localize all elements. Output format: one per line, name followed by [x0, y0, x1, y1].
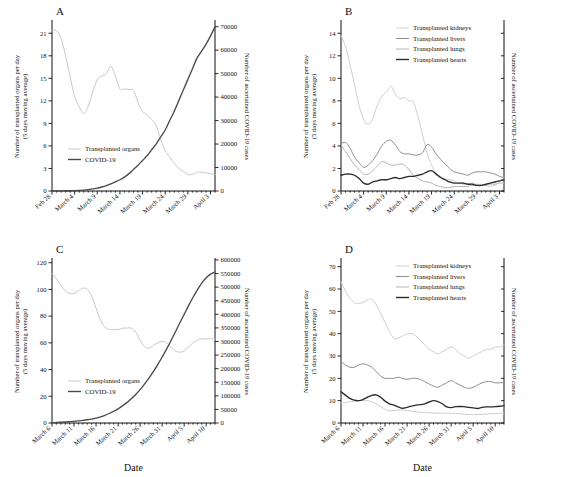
- series-line-covid-19: [52, 272, 215, 423]
- y-tick-label: 120: [37, 259, 48, 266]
- y-tick-label: 80: [40, 312, 47, 319]
- y-axis-title-left: Number of transplanted organs per day: [302, 289, 309, 393]
- y-axis-title-left-sub: (5 days moving average): [21, 309, 29, 374]
- y-tick-label: 20: [40, 393, 47, 400]
- panel-letter: A: [56, 5, 64, 17]
- legend-label: Transplanted hearts: [413, 294, 467, 301]
- y2-tick-label: 60000: [221, 46, 238, 53]
- x-tick-label: March 11: [50, 425, 73, 447]
- y-axis-title-left-sub: (5 days moving average): [21, 74, 29, 139]
- y-tick-label: 10: [329, 75, 336, 82]
- legend-label: Transplanted organs: [85, 377, 140, 384]
- x-tick-label: March 9: [76, 192, 98, 212]
- series-line-transplanted-livers: [341, 362, 504, 389]
- y-tick-label: 15: [40, 75, 47, 82]
- y-tick-label: 70: [329, 263, 336, 270]
- x-tick-label: March 29: [164, 192, 188, 215]
- x-tick-label: March 31: [138, 425, 162, 447]
- y-tick-label: 100: [37, 286, 48, 293]
- legend-label: COVID-19: [85, 156, 116, 163]
- y-tick-label: 8: [332, 97, 336, 104]
- x-tick-label: March 4: [342, 192, 364, 212]
- y-tick-label: 10: [329, 397, 336, 404]
- x-tick-label: Feb 28: [34, 192, 53, 210]
- x-tick-label: April 3: [480, 192, 499, 210]
- y2-tick-label: 350000: [221, 324, 241, 331]
- y-axis-title-right: Number of ascertained COVID-19 cases: [511, 288, 518, 395]
- y2-tick-label: 30000: [221, 117, 238, 124]
- legend-label: Transplanted kidneys: [413, 262, 471, 269]
- y2-tick-label: 300000: [221, 338, 241, 345]
- legend-label: Transplanted lungs: [413, 283, 465, 290]
- x-tick-label: March 4: [53, 192, 75, 212]
- series-line-transplanted-organs: [52, 30, 215, 175]
- panel-letter: D: [345, 243, 353, 255]
- x-tick-label: March 31: [427, 425, 451, 447]
- y-axis-title-left-sub: (5 days moving average): [310, 309, 318, 374]
- y2-tick-label: 150000: [221, 379, 241, 386]
- figure-container: A036912151821010000200003000040000500006…: [0, 0, 577, 477]
- y-tick-label: 9: [43, 120, 47, 127]
- panel-letter: B: [345, 5, 352, 17]
- y-axis-title-left: Number of transplanted organs per day: [13, 289, 20, 393]
- y2-tick-label: 400000: [221, 311, 241, 318]
- legend-label: Transplanted hearts: [413, 56, 467, 63]
- x-tick-label: April 5: [165, 424, 184, 442]
- y-tick-label: 4: [332, 142, 336, 149]
- x-tick-label: March 9: [365, 192, 387, 212]
- x-tick-label: March 21: [383, 425, 407, 447]
- y2-tick-label: 0: [221, 419, 225, 426]
- y2-tick-label: 0: [221, 187, 225, 194]
- x-tick-label: March 29: [453, 192, 477, 215]
- x-tick-label: March 19: [119, 192, 143, 215]
- y2-tick-label: 500000: [221, 283, 241, 290]
- y-tick-label: 12: [329, 52, 336, 59]
- y-axis-title-right: Number of ascertained COVID-19 cases: [511, 53, 518, 160]
- y-tick-label: 20: [329, 375, 336, 382]
- y-axis-title-right: Number of ascertained COVID-19 cases: [244, 53, 251, 160]
- y-tick-label: 3: [43, 165, 47, 172]
- x-tick-label: March 6: [31, 424, 53, 444]
- y2-tick-label: 250000: [221, 351, 241, 358]
- x-tick-label: March 24: [141, 192, 165, 215]
- x-tick-label: March 14: [96, 192, 120, 215]
- x-tick-label: April 10: [474, 424, 496, 445]
- x-axis-title: Date: [124, 462, 143, 473]
- y-tick-label: 6: [43, 142, 47, 149]
- x-tick-label: March 24: [430, 192, 454, 215]
- x-tick-label: March 14: [385, 192, 409, 215]
- x-tick-label: March 26: [116, 424, 140, 447]
- panel-b: B02468101214Feb 28March 4March 9March 14…: [289, 0, 577, 238]
- series-line-transplanted-livers: [341, 140, 504, 177]
- x-tick-label: March 16: [72, 424, 96, 447]
- y-axis-title-right: Number of ascertained COVID-19 cases: [244, 288, 251, 395]
- y-tick-label: 6: [332, 120, 336, 127]
- panel-d: D010203040506070March 6March 11March 16M…: [289, 238, 577, 477]
- x-tick-label: March 21: [94, 425, 118, 447]
- y-tick-label: 30: [329, 352, 336, 359]
- y-axis-title-left: Number of transplanted organs per day: [13, 54, 20, 158]
- x-tick-label: March 6: [320, 424, 342, 444]
- x-tick-label: March 19: [408, 192, 432, 215]
- x-tick-label: April 10: [185, 424, 207, 445]
- y2-tick-label: 100000: [221, 392, 241, 399]
- legend-label: Transplanted lungs: [413, 45, 465, 52]
- panel-c: C020406080100120050000100000150000200000…: [0, 238, 289, 477]
- y2-tick-label: 70000: [221, 23, 238, 30]
- y-tick-label: 21: [40, 30, 47, 37]
- legend-label: Transplanted livers: [413, 35, 465, 42]
- y-tick-label: 50: [329, 308, 336, 315]
- y2-tick-label: 550000: [221, 270, 241, 277]
- y-tick-label: 18: [40, 52, 47, 59]
- y-tick-label: 2: [332, 165, 335, 172]
- y-tick-label: 12: [40, 97, 47, 104]
- y-tick-label: 40: [329, 330, 336, 337]
- y-axis-title-left-sub: (5 days moving average): [310, 74, 318, 139]
- x-tick-label: Feb 28: [323, 192, 342, 210]
- y2-tick-label: 200000: [221, 365, 241, 372]
- y-tick-label: 40: [40, 366, 47, 373]
- series-line-transplanted-organs: [52, 273, 215, 352]
- y2-tick-label: 20000: [221, 140, 238, 147]
- y2-tick-label: 40000: [221, 93, 238, 100]
- legend-label: Transplanted kidneys: [413, 24, 471, 31]
